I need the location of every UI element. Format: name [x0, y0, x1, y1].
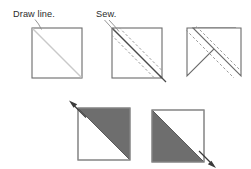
diagram-canvas: Draw line. Sew.	[0, 0, 251, 169]
sew-label: Sew.	[96, 9, 116, 19]
half-square-triangle-diagram: Draw line. Sew.	[0, 0, 251, 169]
step-2-sew	[108, 24, 166, 82]
step-5-press-right	[152, 110, 204, 162]
step-1-draw-line	[32, 28, 82, 78]
step-4-press-left	[78, 108, 130, 160]
draw-line-label: Draw line.	[13, 9, 55, 19]
step-3-cut	[186, 27, 245, 79]
step-2-seam-overrun	[160, 76, 166, 82]
